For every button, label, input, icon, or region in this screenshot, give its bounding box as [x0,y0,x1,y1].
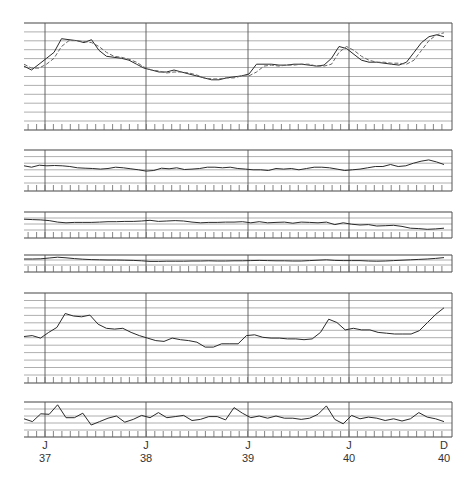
series-line-dashed [24,33,444,79]
panel-2 [24,150,452,191]
multi-panel-line-chart: J 37 J 38 J 39 J 40 D 40 [0,0,476,484]
series-line-series [24,405,444,425]
panel-5 [24,293,452,383]
series-line-series [24,257,444,261]
x-label-year-3: 40 [343,452,355,464]
x-label-month-0: J [42,439,48,451]
x-label-year-0: 37 [39,452,51,464]
series-line-series [24,308,444,347]
panel-6 [24,402,452,437]
x-axis-labels: J 37 J 38 J 39 J 40 D 40 [39,439,450,464]
panel-1 [24,23,452,130]
x-label-month-3: J [346,439,352,451]
x-label-year-2: 39 [242,452,254,464]
panel-3 [24,212,452,238]
x-label-month-1: J [143,439,149,451]
x-label-year-1: 38 [140,452,152,464]
x-label-year-4: 40 [438,452,450,464]
panel-4 [24,255,452,272]
x-label-month-2: J [245,439,251,451]
x-label-month-4: D [440,439,448,451]
